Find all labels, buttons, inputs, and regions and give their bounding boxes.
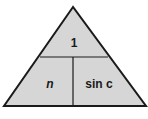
bottom-left-label: n — [46, 77, 53, 91]
top-label: 1 — [71, 36, 78, 50]
formula-triangle: 1 n sin c — [0, 0, 148, 119]
bottom-right-label: sin c — [85, 77, 113, 91]
